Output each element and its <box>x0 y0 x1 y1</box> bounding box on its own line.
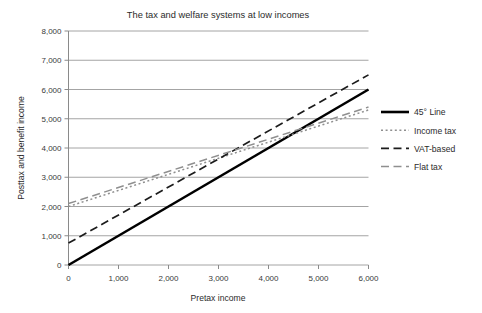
y-tick-label: 0 <box>57 261 62 270</box>
x-tick-label: 1,000 <box>108 274 129 283</box>
y-tick-label: 1,000 <box>41 232 62 241</box>
y-axis-title: Posttax and benefit income <box>16 96 26 200</box>
x-tick-label: 5,000 <box>308 274 329 283</box>
y-tick-label: 6,000 <box>41 86 62 95</box>
x-tick-label: 6,000 <box>358 274 379 283</box>
x-tick-label: 0 <box>66 274 71 283</box>
y-tick-label: 3,000 <box>41 173 62 182</box>
y-tick-label: 7,000 <box>41 56 62 65</box>
x-tick-label: 2,000 <box>158 274 179 283</box>
x-tick-label: 4,000 <box>258 274 279 283</box>
y-tick-label: 8,000 <box>41 27 62 36</box>
chart-title: The tax and welfare systems at low incom… <box>127 10 310 20</box>
y-tick-label: 2,000 <box>41 203 62 212</box>
y-tick-label: 5,000 <box>41 115 62 124</box>
legend-label-4[interactable]: Flat tax <box>414 162 443 172</box>
x-tick-label: 3,000 <box>208 274 229 283</box>
legend-label-2[interactable]: Income tax <box>414 126 457 136</box>
chart-canvas: The tax and welfare systems at low incom… <box>0 0 482 313</box>
chart-background <box>0 0 482 313</box>
y-tick-label: 4,000 <box>41 144 62 153</box>
legend-label-3[interactable]: VAT-based <box>414 144 455 154</box>
chart-figure: The tax and welfare systems at low incom… <box>0 0 482 313</box>
x-axis-title: Pretax income <box>191 293 246 303</box>
legend-label-1[interactable]: 45° Line <box>414 107 446 117</box>
